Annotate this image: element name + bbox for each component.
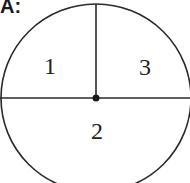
- region-label-2: 2: [91, 118, 103, 144]
- circle-diagram: 1 3 2: [0, 0, 190, 183]
- spinner-diagram: A: 1 3 2: [0, 0, 190, 183]
- region-label-3: 3: [139, 54, 151, 80]
- center-dot: [93, 95, 100, 102]
- region-label-1: 1: [44, 53, 56, 79]
- figure-label: A:: [0, 0, 21, 16]
